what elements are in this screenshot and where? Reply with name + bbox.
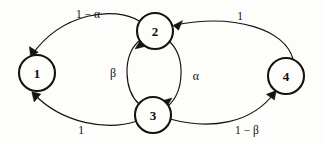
edge-4-to-2-arrowhead [173, 21, 182, 31]
node-1-label: 1 [34, 66, 41, 81]
edge-4-to-2-path [175, 21, 293, 59]
edge-label-3-to-1: 1 [78, 124, 84, 136]
edge-3-to-1-path [33, 93, 137, 125]
node-1[interactable]: 1 [19, 55, 55, 91]
node-2-label: 2 [152, 24, 159, 39]
edge-3-to-4-arrowhead [266, 91, 276, 100]
edge-label-4-to-2: 1 [237, 10, 243, 22]
edge-3-to-1 [32, 92, 137, 126]
edge-2-to-3-path [168, 42, 181, 106]
node-3[interactable]: 3 [135, 97, 171, 133]
edge-2-to-3 [162, 42, 181, 107]
node-3-label: 3 [150, 108, 157, 123]
edge-4-to-2 [173, 21, 293, 59]
edge-3-to-4-path [170, 92, 275, 124]
edge-label-2-to-3: α [193, 69, 200, 83]
edge-3-to-1-arrowhead [32, 92, 41, 102]
edge-2-to-1 [29, 14, 139, 57]
edge-3-to-2-path [127, 41, 139, 104]
state-transition-diagram: 1 2 3 4 1 − α 1 β α 1 1 − β [0, 0, 322, 143]
edge-label-2-to-1: 1 − α [76, 8, 100, 20]
node-4[interactable]: 4 [268, 58, 304, 94]
edge-label-3-to-4: 1 − β [235, 124, 259, 137]
edge-label-3-to-2: β [110, 66, 116, 80]
node-2[interactable]: 2 [137, 13, 173, 49]
node-4-label: 4 [283, 69, 290, 84]
edge-3-to-4 [170, 91, 276, 124]
diagram-canvas: 1 2 3 4 1 − α 1 β α 1 1 − β [0, 0, 322, 143]
edge-3-to-2 [127, 40, 145, 104]
